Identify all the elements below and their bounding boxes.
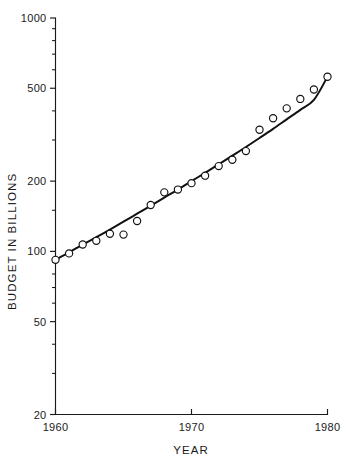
y-tick-label-50: 50 — [34, 316, 47, 328]
data-point-1980 — [324, 73, 331, 80]
x-axis-title: YEAR — [173, 444, 209, 456]
x-tick-label-1970: 1970 — [179, 421, 205, 433]
data-point-markers — [52, 73, 331, 263]
y-axis: 20501002005001000 BUDGET IN BILLIONS — [6, 12, 56, 421]
data-point-1963 — [93, 237, 100, 244]
data-point-1979 — [310, 86, 317, 93]
data-point-1972 — [215, 162, 222, 169]
data-point-1973 — [229, 156, 236, 163]
y-axis-tick-labels: 20501002005001000 — [21, 12, 47, 421]
plot-area — [52, 73, 331, 263]
data-point-1978 — [297, 95, 304, 102]
data-point-1968 — [161, 189, 168, 196]
y-axis-title: BUDGET IN BILLIONS — [6, 173, 18, 310]
y-tick-label-100: 100 — [27, 245, 46, 257]
budget-chart-figure: 20501002005001000 BUDGET IN BILLIONS 196… — [0, 0, 346, 459]
y-tick-label-200: 200 — [27, 175, 46, 187]
data-point-1970 — [188, 180, 195, 187]
budget-vs-year-chart: 20501002005001000 BUDGET IN BILLIONS 196… — [0, 0, 346, 459]
data-point-1975 — [256, 126, 263, 133]
data-point-1962 — [79, 241, 86, 248]
x-axis: 196019701980 YEAR — [43, 409, 341, 456]
y-tick-label-20: 20 — [34, 409, 47, 421]
data-point-1965 — [120, 231, 127, 238]
y-tick-label-1000: 1000 — [21, 12, 47, 24]
y-tick-label-500: 500 — [27, 82, 46, 94]
data-point-1971 — [202, 172, 209, 179]
data-point-1976 — [270, 115, 277, 122]
data-point-1961 — [66, 250, 73, 257]
data-point-1960 — [52, 256, 59, 263]
data-point-1967 — [147, 201, 154, 208]
x-tick-label-1980: 1980 — [315, 421, 341, 433]
data-point-1966 — [134, 217, 141, 224]
x-axis-tick-labels: 196019701980 — [43, 421, 341, 433]
x-tick-label-1960: 1960 — [43, 421, 69, 433]
data-point-1977 — [283, 105, 290, 112]
x-axis-major-ticks — [56, 409, 328, 415]
y-axis-major-ticks — [50, 18, 56, 415]
data-point-1964 — [106, 230, 113, 237]
data-point-1974 — [242, 147, 249, 154]
data-point-1969 — [174, 186, 181, 193]
